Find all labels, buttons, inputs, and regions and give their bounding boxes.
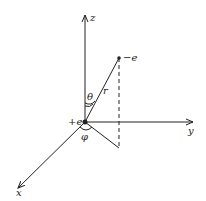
point-charge-label: −e	[123, 53, 137, 63]
origin-charge-dot	[83, 120, 88, 125]
phi-arc	[80, 127, 92, 130]
phi-label: φ	[81, 132, 88, 142]
coordinate-diagram	[0, 0, 206, 201]
x-axis	[18, 122, 85, 188]
point-charge-dot	[117, 56, 121, 60]
radius-label: r	[103, 86, 108, 96]
origin-charge-label: +e	[68, 117, 82, 127]
z-axis-label: z	[90, 13, 95, 23]
projection-line	[85, 122, 119, 148]
radius-line	[85, 58, 119, 122]
y-axis-label: y	[188, 126, 194, 136]
theta-label: θ	[87, 92, 93, 102]
x-axis-label: x	[16, 188, 22, 198]
